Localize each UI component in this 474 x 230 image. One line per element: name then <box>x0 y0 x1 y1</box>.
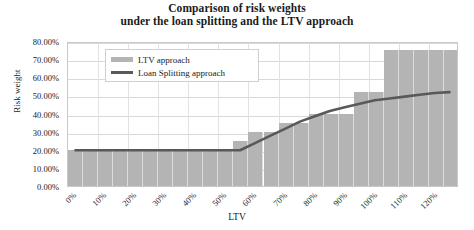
chart-title: Comparison of risk weights under the loa… <box>0 2 474 28</box>
x-axis-tick-label: 90% <box>328 190 349 211</box>
chart-title-line1: Comparison of risk weights <box>168 2 306 14</box>
y-axis-tick-label: 60.00% <box>33 73 59 83</box>
x-axis-tick-label: 10% <box>87 190 108 211</box>
x-axis-tick-label: 70% <box>267 190 288 211</box>
y-axis-tick-labels: 0.00%10.00%20.00%30.00%40.00%50.00%60.00… <box>0 42 63 187</box>
legend-label-ltv-approach: LTV approach <box>138 55 190 65</box>
legend-swatch-bar-icon <box>111 57 133 62</box>
y-axis-tick-label: 40.00% <box>33 110 59 120</box>
y-axis-tick-label: 10.00% <box>33 164 59 174</box>
x-axis-tick-label: 40% <box>177 190 198 211</box>
legend-item-ltv-approach: LTV approach <box>111 53 253 66</box>
y-axis-tick-label: 50.00% <box>33 91 59 101</box>
y-axis-tick-label: 0.00% <box>37 182 59 192</box>
x-axis-title: LTV <box>0 212 474 222</box>
chart-legend: LTV approach Loan Splitting approach <box>105 49 259 82</box>
y-axis-title: Risk weight <box>12 56 22 126</box>
legend-item-loan-splitting-approach: Loan Splitting approach <box>111 66 253 79</box>
x-axis-tick-label: 80% <box>297 190 318 211</box>
y-axis-tick-label: 20.00% <box>33 146 59 156</box>
x-axis-tick-label: 50% <box>207 190 228 211</box>
x-axis-tick-label: 110% <box>388 190 409 211</box>
y-axis-tick-label: 70.00% <box>33 55 59 65</box>
x-axis-tick-label: 60% <box>237 190 258 211</box>
chart-title-line2: under the loan splitting and the LTV app… <box>0 15 474 28</box>
chart-container: Comparison of risk weights under the loa… <box>0 0 474 230</box>
x-axis-tick-label: 100% <box>358 190 379 211</box>
y-axis-tick-label: 30.00% <box>33 128 59 138</box>
legend-label-loan-splitting-approach: Loan Splitting approach <box>138 68 225 78</box>
x-axis-tick-label: 120% <box>418 190 439 211</box>
y-axis-tick-label: 80.00% <box>33 37 59 47</box>
x-axis-tick-label: 20% <box>117 190 138 211</box>
legend-swatch-line-icon <box>111 71 133 74</box>
x-axis-tick-label: 30% <box>147 190 168 211</box>
x-axis-tick-label: 0% <box>57 190 78 211</box>
